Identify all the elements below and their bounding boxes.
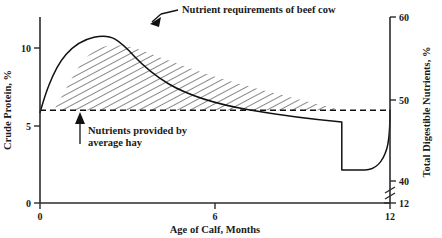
hay-annotation-line1: Nutrients provided by: [88, 125, 188, 136]
y-axis-title-left: Crude Protein, %: [2, 70, 13, 150]
x-axis-title: Age of Calf, Months: [170, 224, 260, 235]
y2-tick-label-50: 50: [399, 95, 409, 106]
deficit-hatch-region: [54, 45, 342, 110]
y2-tick-label-12: 12: [399, 198, 409, 209]
y-tick-label-5: 5: [26, 121, 31, 132]
y-axis-title-right: Total Digestible Nutrients, %: [421, 47, 432, 178]
requirement-annotation-label: Nutrient requirements of beef cow: [182, 4, 336, 15]
nutrient-requirement-chart: 0 5 10 0 6 12 60 50 40 12 Age of Calf, M…: [0, 0, 442, 238]
y-tick-label-10: 10: [21, 43, 31, 54]
y-tick-label-0: 0: [26, 198, 31, 209]
y2-tick-label-40: 40: [399, 176, 409, 187]
chart-container: 0 5 10 0 6 12 60 50 40 12 Age of Calf, M…: [0, 0, 442, 238]
y2-tick-label-60: 60: [399, 12, 409, 23]
requirement-annotation-group: Nutrient requirements of beef cow: [150, 4, 336, 27]
x-tick-label-6: 6: [213, 211, 218, 222]
x-tick-label-0: 0: [38, 211, 43, 222]
x-tick-label-12: 12: [385, 211, 395, 222]
hay-annotation-line2: average hay: [88, 137, 143, 148]
hay-arrow-icon: [75, 112, 85, 124]
hay-annotation-group: Nutrients provided by average hay: [75, 112, 188, 148]
